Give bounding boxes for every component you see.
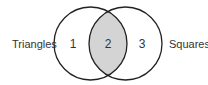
squares-label: Squares <box>169 38 208 50</box>
triangles-label: Triangles <box>12 38 57 50</box>
region-1-label: 1 <box>70 37 77 51</box>
region-2-label: 2 <box>105 37 112 51</box>
region-3-label: 3 <box>139 37 146 51</box>
venn-diagram: Triangles Squares 1 2 3 <box>0 0 208 85</box>
